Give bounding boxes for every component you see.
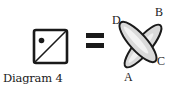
square-symbol [34,30,67,63]
square-diagonal [35,31,66,62]
square-dot [39,38,45,44]
label-d: D [112,14,121,26]
label-b: B [155,6,163,18]
label-c: C [157,55,165,67]
equals-sign [86,33,104,48]
diagram-caption: Diagram 4 [3,71,63,85]
label-a: A [124,71,133,83]
equals-bottom-bar [86,43,104,48]
equals-top-bar [86,33,104,38]
